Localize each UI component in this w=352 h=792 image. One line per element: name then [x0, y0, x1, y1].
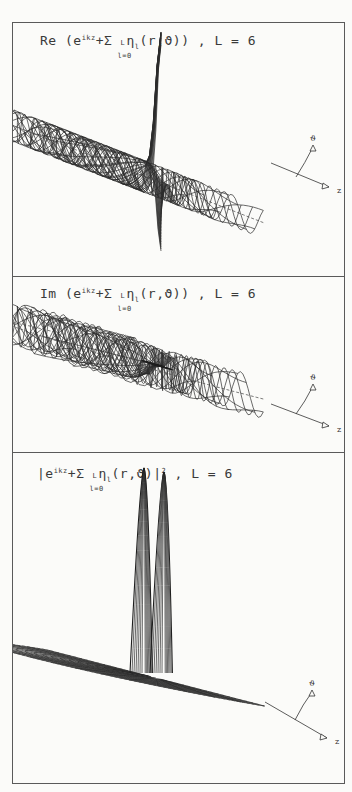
theta-axis-label: ϑ — [309, 679, 315, 688]
z-axis-arrow-icon — [322, 183, 329, 189]
z-axis-label: z — [337, 186, 341, 195]
theta-arc — [296, 147, 313, 177]
theta-arrow-icon — [310, 145, 316, 151]
theta-axis-label: ϑ — [310, 134, 316, 143]
z-axis-line — [265, 702, 327, 738]
panel-imag: Im (eikz+ΣLl=0ηl(r,ϑ)) , L = 6 zϑ — [13, 276, 344, 452]
panel-real: Re (eikz+ΣLl=0ηl(r,ϑ)) , L = 6 zϑ — [13, 23, 344, 276]
z-axis-line — [271, 404, 329, 426]
z-axis-arrow-icon — [322, 422, 329, 428]
surface-plot-real: zϑ — [13, 23, 346, 276]
mesh-radial-line — [13, 32, 161, 186]
mesh-radial-line — [13, 33, 161, 183]
theta-axis-label: ϑ — [310, 373, 316, 382]
z-axis-label: z — [335, 737, 339, 746]
panel-modsq: |eikz+ΣLl=0ηl(r,ϑ)|2 , L = 6 zϑ — [13, 452, 344, 785]
z-axis-arrow-icon — [320, 734, 327, 740]
theta-arrow-icon — [309, 690, 315, 696]
surface-plot-modsq: zϑ — [13, 452, 346, 785]
mesh-radial-line — [14, 39, 161, 173]
surface-plot-imag: zϑ — [13, 276, 346, 452]
mesh-radial-line — [40, 35, 161, 191]
mesh-arc-line — [30, 118, 246, 229]
z-axis-label: z — [337, 425, 341, 434]
theta-arrow-icon — [310, 384, 316, 390]
z-axis-line — [271, 163, 329, 187]
figure-frame: Re (eikz+ΣLl=0ηl(r,ϑ)) , L = 6 zϑ Im (ei… — [12, 22, 345, 784]
